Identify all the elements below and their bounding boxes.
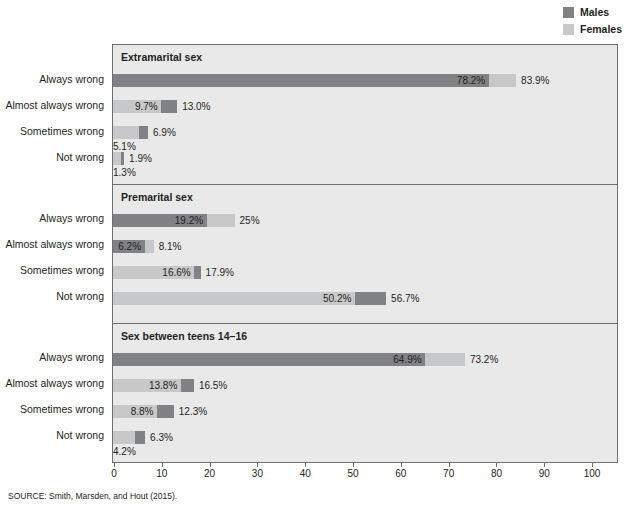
bar-value-inner: 13.8%	[149, 379, 177, 392]
square-swatch-icon	[563, 24, 574, 35]
bar-row: 4.2%6.3%	[113, 426, 617, 452]
x-axis-tick-label: 20	[204, 468, 215, 480]
bar-group: 6.2%8.1%	[113, 240, 617, 253]
category-label: Sometimes wrong	[20, 403, 104, 416]
bar-value-inner: 8.8%	[131, 405, 154, 418]
panel-title: Extramarital sex	[121, 51, 202, 63]
square-swatch-icon	[563, 7, 574, 18]
bar-group: 4.2%6.3%	[113, 431, 617, 444]
legend-item-label: Males	[580, 7, 609, 18]
x-axis-tick	[544, 463, 545, 467]
legend-item-label: Females	[580, 24, 622, 35]
x-axis-tick	[210, 463, 211, 467]
bar-value-inner: 64.9%	[393, 353, 421, 366]
bar-row: 9.7%13.0%	[113, 95, 617, 121]
chart-plot-area: Extramarital sex78.2%83.9%9.7%13.0%5.1%6…	[112, 44, 618, 463]
bar-row: 8.8%12.3%	[113, 400, 617, 426]
chart-panel-1: Extramarital sex78.2%83.9%9.7%13.0%5.1%6…	[113, 45, 617, 184]
bar-value-outer: 13.0%	[182, 100, 210, 113]
bar-value-outer: 16.5%	[199, 379, 227, 392]
chart-legend: MalesFemales	[563, 6, 622, 36]
x-axis-tick	[353, 463, 354, 467]
bar-value-inner: 6.2%	[118, 240, 141, 253]
bar-group: 8.8%12.3%	[113, 405, 617, 418]
bar-value-inner: 1.3%	[113, 166, 136, 179]
bar-row: 6.2%8.1%	[113, 235, 617, 261]
category-label: Not wrong	[56, 429, 104, 442]
bar-value-inner: 16.6%	[162, 266, 190, 279]
x-axis-tick	[257, 463, 258, 467]
bar-group: 16.6%17.9%	[113, 266, 617, 279]
category-label: Almost always wrong	[5, 377, 104, 390]
bar-value-outer: 1.9%	[129, 152, 152, 165]
bar-value-inner: 4.2%	[113, 445, 136, 458]
x-axis-tick	[449, 463, 450, 467]
bar-value-outer: 83.9%	[521, 74, 549, 87]
x-axis-tick	[305, 463, 306, 467]
x-axis-tick-label: 50	[347, 468, 358, 480]
category-label: Always wrong	[39, 212, 104, 225]
category-label: Almost always wrong	[5, 238, 104, 251]
bar-row: 50.2%56.7%	[113, 287, 617, 313]
bar-value-outer: 6.3%	[150, 431, 173, 444]
bar-males[interactable]	[113, 353, 425, 366]
category-label: Not wrong	[56, 151, 104, 164]
x-axis-tick	[401, 463, 402, 467]
bar-group: 9.7%13.0%	[113, 100, 617, 113]
category-label: Always wrong	[39, 351, 104, 364]
x-axis-tick	[496, 463, 497, 467]
bar-group: 64.9%73.2%	[113, 353, 617, 366]
x-axis-tick-label: 80	[491, 468, 502, 480]
legend-item-males[interactable]: Males	[563, 6, 609, 19]
x-axis-tick-label: 90	[539, 468, 550, 480]
bar-group: 1.3%1.9%	[113, 152, 617, 165]
bar-females[interactable]	[113, 126, 139, 139]
bar-row: 78.2%83.9%	[113, 69, 617, 95]
bar-value-outer: 17.9%	[206, 266, 234, 279]
bar-value-inner: 19.2%	[175, 214, 203, 227]
legend-item-females[interactable]: Females	[563, 23, 622, 36]
x-axis-tick-label: 100	[584, 468, 601, 480]
panel-rows: 78.2%83.9%9.7%13.0%5.1%6.9%1.3%1.9%	[113, 69, 617, 173]
clipped-figure-title	[0, 0, 634, 2]
x-axis-tick	[114, 463, 115, 467]
bar-group: 50.2%56.7%	[113, 292, 617, 305]
panel-rows: 19.2%25%6.2%8.1%16.6%17.9%50.2%56.7%	[113, 209, 617, 313]
bar-group: 5.1%6.9%	[113, 126, 617, 139]
panel-title: Sex between teens 14–16	[121, 330, 247, 342]
bar-group: 78.2%83.9%	[113, 74, 617, 87]
panel-rows: 64.9%73.2%13.8%16.5%8.8%12.3%4.2%6.3%	[113, 348, 617, 452]
bar-row: 64.9%73.2%	[113, 348, 617, 374]
bar-value-outer: 8.1%	[159, 240, 182, 253]
bar-females[interactable]	[113, 431, 135, 444]
bar-row: 1.3%1.9%	[113, 147, 617, 173]
panel-title: Premarital sex	[121, 191, 193, 203]
category-label: Sometimes wrong	[20, 125, 104, 138]
x-axis-tick-label: 60	[395, 468, 406, 480]
chart-panel-3: Sex between teens 14–1664.9%73.2%13.8%16…	[113, 323, 617, 462]
x-axis-tick	[592, 463, 593, 467]
category-label: Not wrong	[56, 290, 104, 303]
bar-row: 16.6%17.9%	[113, 261, 617, 287]
bar-value-inner: 50.2%	[323, 292, 351, 305]
chart-panel-2: Premarital sex19.2%25%6.2%8.1%16.6%17.9%…	[113, 184, 617, 323]
x-axis: 0102030405060708090100	[112, 463, 618, 485]
bar-females[interactable]	[113, 152, 121, 165]
bar-value-outer: 6.9%	[153, 126, 176, 139]
bar-value-inner: 78.2%	[457, 74, 485, 87]
bar-value-outer: 25%	[240, 214, 260, 227]
x-axis-tick-label: 30	[252, 468, 263, 480]
source-note: SOURCE: Smith, Marsden, and Hout (2015).	[8, 491, 177, 501]
category-label: Always wrong	[39, 73, 104, 86]
bar-value-inner: 9.7%	[135, 100, 158, 113]
category-label: Sometimes wrong	[20, 264, 104, 277]
x-axis-tick	[162, 463, 163, 467]
x-axis-tick-label: 10	[156, 468, 167, 480]
x-axis-tick-label: 70	[443, 468, 454, 480]
bar-row: 19.2%25%	[113, 209, 617, 235]
bar-value-outer: 56.7%	[391, 292, 419, 305]
bar-males[interactable]	[113, 74, 489, 87]
bar-females[interactable]	[113, 292, 355, 305]
bar-value-outer: 73.2%	[470, 353, 498, 366]
x-axis-tick-label: 40	[300, 468, 311, 480]
